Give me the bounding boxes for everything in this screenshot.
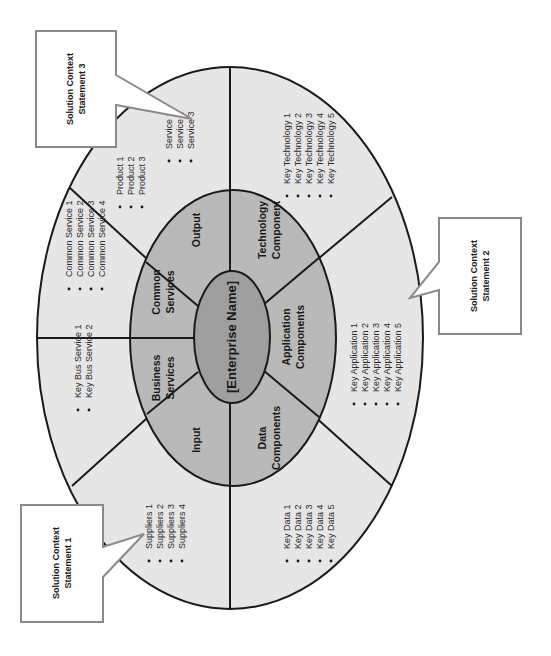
bullet-icon bbox=[297, 560, 300, 563]
bullet-icon bbox=[364, 403, 367, 406]
bullet-icon bbox=[297, 195, 300, 198]
list-item: Common Service 4 bbox=[97, 200, 107, 277]
svg-text:Technology: Technology bbox=[256, 201, 268, 259]
callout-statement-3-line-2: Statement 3 bbox=[77, 63, 87, 114]
bullet-icon bbox=[79, 288, 82, 291]
list-item: Suppliers 2 bbox=[155, 504, 165, 549]
common-service-list: Common Service 1Common Service 2Common S… bbox=[64, 200, 107, 290]
list-item: Key Bus Service 1 bbox=[73, 324, 83, 398]
svg-text:Output: Output bbox=[190, 212, 202, 247]
list-item: Service 1 bbox=[164, 111, 174, 149]
list-item: Suppliers 4 bbox=[177, 504, 187, 549]
key-technology-list: Key Technology 1Key Technology 2Key Tech… bbox=[282, 113, 336, 197]
list-item: Suppliers 1 bbox=[144, 504, 154, 549]
list-item: Common Service 3 bbox=[86, 200, 96, 277]
list-item: Product 2 bbox=[126, 156, 136, 195]
bullet-icon bbox=[286, 560, 289, 563]
bullet-icon bbox=[168, 160, 171, 163]
callout-statement-3-line-1: Solution Context bbox=[65, 53, 75, 125]
bullet-icon bbox=[179, 160, 182, 163]
bullet-icon bbox=[330, 560, 333, 563]
bullet-icon bbox=[190, 160, 193, 163]
callout-statement-2-line-2: Statement 2 bbox=[481, 250, 491, 301]
svg-text:Components: Components bbox=[270, 406, 282, 470]
bullet-icon bbox=[308, 560, 311, 563]
enterprise-context-diagram: [Enterprise Name] Output Common Services… bbox=[0, 0, 551, 656]
list-item: Key Technology 3 bbox=[304, 113, 314, 184]
bullet-icon bbox=[330, 195, 333, 198]
list-item: Key Technology 1 bbox=[282, 113, 292, 184]
svg-text:Services: Services bbox=[164, 270, 176, 313]
list-item: Key Application 5 bbox=[393, 323, 403, 392]
list-item: Key Application 2 bbox=[360, 323, 370, 392]
list-item: Common Service 1 bbox=[64, 200, 74, 277]
bullet-icon bbox=[77, 409, 80, 412]
bullet-icon bbox=[159, 560, 162, 563]
list-item: Key Data 5 bbox=[326, 504, 336, 549]
bullet-icon bbox=[319, 560, 322, 563]
list-item: Key Technology 4 bbox=[315, 113, 325, 184]
callout-statement-1-line-1: Solution Context bbox=[51, 527, 61, 599]
callout-statement-2: Solution Context Statement 2 bbox=[410, 218, 521, 334]
bullet-icon bbox=[397, 403, 400, 406]
list-item: Common Service 2 bbox=[75, 200, 85, 277]
bullet-icon bbox=[170, 560, 173, 563]
bullet-icon bbox=[101, 288, 104, 291]
bullet-icon bbox=[386, 403, 389, 406]
list-item: Key Application 4 bbox=[382, 323, 392, 392]
list-item: Key Technology 2 bbox=[293, 113, 303, 184]
svg-text:Application: Application bbox=[280, 308, 292, 365]
list-item: Product 3 bbox=[137, 156, 147, 195]
list-item: Key Data 3 bbox=[304, 504, 314, 549]
bullet-icon bbox=[353, 403, 356, 406]
list-item: Key Bus Service 2 bbox=[84, 324, 94, 398]
list-item: Suppliers 3 bbox=[166, 504, 176, 549]
svg-text:Common: Common bbox=[150, 269, 162, 315]
segment-label-output: Output bbox=[190, 212, 202, 247]
bullet-icon bbox=[319, 195, 322, 198]
svg-text:Component: Component bbox=[270, 200, 282, 259]
segment-label-input: Input bbox=[190, 427, 202, 453]
callout-statement-1-line-2: Statement 1 bbox=[63, 537, 73, 588]
bullet-icon bbox=[130, 206, 133, 209]
key-bus-service-list: Key Bus Service 1Key Bus Service 2 bbox=[73, 324, 94, 411]
svg-text:Data: Data bbox=[256, 426, 268, 449]
bullet-icon bbox=[68, 288, 71, 291]
bullet-icon bbox=[119, 206, 122, 209]
core-label: [Enterprise Name] bbox=[224, 281, 239, 393]
bullet-icon bbox=[148, 560, 151, 563]
list-item: Key Application 3 bbox=[371, 323, 381, 392]
bullet-icon bbox=[88, 409, 91, 412]
list-item: Key Data 1 bbox=[282, 504, 292, 549]
bullet-icon bbox=[181, 560, 184, 563]
svg-text:Input: Input bbox=[190, 427, 202, 453]
svg-text:Business: Business bbox=[150, 354, 162, 401]
bullet-icon bbox=[308, 195, 311, 198]
svg-text:Components: Components bbox=[294, 305, 306, 369]
callout-statement-2-shape bbox=[410, 218, 521, 334]
list-item: Key Technology 5 bbox=[326, 113, 336, 184]
bullet-icon bbox=[90, 288, 93, 291]
list-item: Product 1 bbox=[115, 156, 125, 195]
bullet-icon bbox=[286, 195, 289, 198]
list-item: Key Data 2 bbox=[293, 504, 303, 549]
bullet-icon bbox=[375, 403, 378, 406]
bullet-icon bbox=[141, 206, 144, 209]
svg-text:Services: Services bbox=[164, 356, 176, 399]
list-item: Key Data 4 bbox=[315, 504, 325, 549]
callout-statement-2-line-1: Solution Context bbox=[469, 240, 479, 312]
list-item: Key Application 1 bbox=[349, 323, 359, 392]
